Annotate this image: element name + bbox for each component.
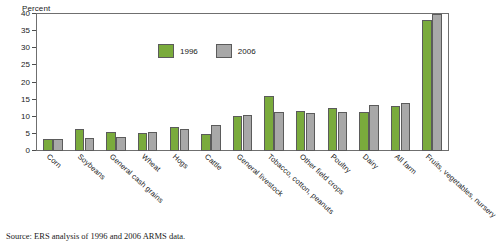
legend-label-1996: 1996 bbox=[180, 47, 198, 56]
y-tick-label: 10 bbox=[21, 112, 30, 121]
bar-1996 bbox=[138, 133, 148, 151]
bar-1996 bbox=[328, 108, 338, 151]
bar-group bbox=[422, 14, 442, 151]
bar-2006 bbox=[306, 113, 316, 151]
bar-2006 bbox=[243, 115, 253, 151]
x-label-wheat: Wheat bbox=[140, 152, 163, 174]
x-label-cattle: Cattle bbox=[203, 152, 224, 172]
bar-1996 bbox=[43, 139, 53, 151]
legend-swatch-1996 bbox=[158, 44, 174, 58]
y-tick-label: 0 bbox=[26, 146, 30, 155]
x-label-all-farm: All farm bbox=[393, 152, 419, 176]
legend-item-1996[interactable]: 1996 bbox=[158, 44, 198, 58]
bar-group bbox=[75, 14, 95, 151]
x-label-general-cash-grains: General cash grains bbox=[108, 152, 165, 205]
x-label-hogs: Hogs bbox=[171, 152, 190, 171]
bar-group bbox=[264, 14, 284, 151]
bar-1996 bbox=[391, 106, 401, 151]
x-label-dairy: Dairy bbox=[361, 152, 380, 171]
bar-1996 bbox=[75, 129, 85, 151]
y-tick-label: 30 bbox=[21, 43, 30, 52]
y-tick-label: 15 bbox=[21, 95, 30, 104]
bar-1996 bbox=[106, 132, 116, 151]
y-tick-label: 35 bbox=[21, 26, 30, 35]
x-axis-labels: CornSoybeansGeneral cash grainsWheatHogs… bbox=[37, 152, 448, 242]
bar-1996 bbox=[422, 20, 432, 151]
bar-group bbox=[138, 14, 158, 151]
bar-group bbox=[201, 14, 221, 151]
x-label-soybeans: Soybeans bbox=[76, 152, 107, 182]
bar-2006 bbox=[148, 132, 158, 151]
bar-2006 bbox=[338, 112, 348, 151]
x-label-corn: Corn bbox=[45, 152, 63, 170]
y-axis-ticks: 0510152025303540 bbox=[0, 0, 36, 160]
chart-legend: 19962006 bbox=[158, 44, 256, 58]
bar-group bbox=[296, 14, 316, 151]
legend-item-2006[interactable]: 2006 bbox=[216, 44, 256, 58]
bar-1996 bbox=[264, 96, 274, 151]
bars-layer bbox=[37, 14, 448, 151]
bar-2006 bbox=[369, 105, 379, 151]
bar-2006 bbox=[401, 103, 411, 151]
x-label-fruits-vegetables-nursery: Fruits, vegetables, nursery bbox=[424, 152, 498, 220]
legend-swatch-2006 bbox=[216, 44, 232, 58]
bar-2006 bbox=[432, 14, 442, 151]
bar-1996 bbox=[359, 112, 369, 151]
bar-1996 bbox=[170, 127, 180, 151]
y-tick-label: 5 bbox=[26, 129, 30, 138]
bar-group bbox=[233, 14, 253, 151]
bar-group bbox=[328, 14, 348, 151]
bar-2006 bbox=[180, 129, 190, 151]
bar-1996 bbox=[296, 111, 306, 151]
bar-2006 bbox=[211, 125, 221, 151]
bar-1996 bbox=[233, 116, 243, 151]
source-note: Source: ERS analysis of 1996 and 2006 AR… bbox=[6, 231, 185, 241]
x-label-poultry: Poultry bbox=[329, 152, 353, 175]
bar-1996 bbox=[201, 134, 211, 151]
y-tick-label: 20 bbox=[21, 78, 30, 87]
bar-group bbox=[391, 14, 411, 151]
bar-2006 bbox=[85, 138, 95, 151]
bar-group bbox=[170, 14, 190, 151]
bar-group bbox=[43, 14, 63, 151]
y-tick-label: 40 bbox=[21, 9, 30, 18]
bar-2006 bbox=[116, 137, 126, 151]
bar-2006 bbox=[274, 112, 284, 151]
legend-label-2006: 2006 bbox=[238, 47, 256, 56]
bar-2006 bbox=[53, 139, 63, 151]
y-tick-label: 25 bbox=[21, 60, 30, 69]
bar-group bbox=[359, 14, 379, 151]
bar-group bbox=[106, 14, 126, 151]
